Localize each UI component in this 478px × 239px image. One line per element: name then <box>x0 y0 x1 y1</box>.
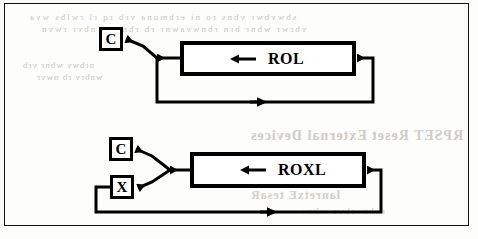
roxl-operation-box[interactable]: ROXL <box>190 152 366 188</box>
connector-lines <box>0 0 478 239</box>
rol-carry-flag-box[interactable]: C <box>99 27 123 51</box>
roxl-carry-branch <box>136 149 170 170</box>
roxl-extend-flag-box[interactable]: X <box>110 175 134 199</box>
rol-operation-label: ROL <box>268 50 304 68</box>
left-arrow-icon <box>230 53 256 65</box>
rol-carry-flag-label: C <box>106 32 117 47</box>
roxl-operation-label: ROXL <box>278 161 326 179</box>
roxl-extend-flag-label: X <box>117 180 128 195</box>
figure-container: sbwvbwr vbns ro ni erbmuna vrb rq rl rwl… <box>0 0 478 239</box>
rol-operation-box[interactable]: ROL <box>180 41 356 76</box>
roxl-extend-branch <box>138 170 170 188</box>
roxl-carry-flag-box[interactable]: C <box>109 137 133 161</box>
left-arrow-icon <box>240 164 266 176</box>
roxl-carry-flag-label: C <box>116 142 127 157</box>
rol-output-line <box>126 39 180 58</box>
